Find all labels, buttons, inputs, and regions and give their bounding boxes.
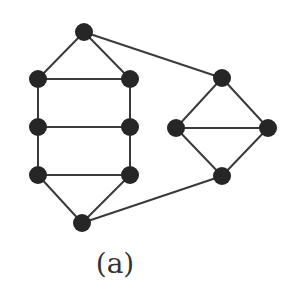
graph-node xyxy=(73,214,91,232)
graph-edge xyxy=(176,128,222,176)
graph-node xyxy=(121,70,139,88)
graph-edge xyxy=(176,78,222,128)
graph-node xyxy=(213,167,231,185)
graph-edge xyxy=(38,32,84,79)
graph-node xyxy=(121,118,139,136)
graph-node xyxy=(29,118,47,136)
graph-node xyxy=(75,23,93,41)
graph-edge xyxy=(222,128,268,176)
graph-node xyxy=(29,166,47,184)
graph-edge xyxy=(222,78,268,128)
graph-node xyxy=(259,119,277,137)
graph-edges xyxy=(38,32,268,223)
graph-node xyxy=(167,119,185,137)
graph-node xyxy=(213,69,231,87)
graph-edge xyxy=(82,176,222,223)
figure-caption: (a) xyxy=(0,247,230,280)
graph-node xyxy=(29,70,47,88)
graph-edge xyxy=(38,175,82,223)
graph-edge xyxy=(84,32,222,78)
graph-node xyxy=(121,166,139,184)
